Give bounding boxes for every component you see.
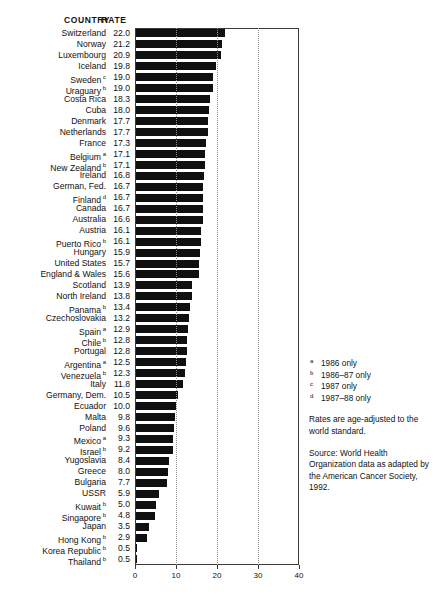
rate-value: 12.8 [108, 346, 130, 356]
rate-value: 19.8 [108, 61, 130, 71]
country-label: Yugoslavia [0, 455, 106, 465]
bar [135, 457, 169, 465]
column-header-rate: RATE [97, 15, 131, 25]
rate-value: 16.7 [108, 203, 130, 213]
bar [135, 128, 208, 136]
x-axis-tick [176, 565, 177, 569]
footnote-marker: c [310, 379, 313, 391]
country-label: Australia [0, 214, 106, 224]
rate-value: 12.3 [108, 368, 130, 378]
rate-value: 16.6 [108, 214, 130, 224]
rate-value: 18.3 [108, 94, 130, 104]
rate-value: 8.4 [108, 455, 130, 465]
footnote-marker: b [101, 556, 106, 562]
rate-value: 7.7 [108, 477, 130, 487]
bar [135, 468, 168, 476]
x-axis-tick [299, 565, 300, 569]
footnote-marker: a [101, 435, 106, 441]
rate-value: 2.9 [108, 532, 130, 542]
rate-value: 12.9 [108, 324, 130, 334]
bar [135, 347, 187, 355]
country-label: Malta [0, 412, 106, 422]
bar [135, 391, 178, 399]
footnote-marker: b [101, 501, 106, 507]
country-label: Scotland [0, 280, 106, 290]
footnote-item: c1987 only [309, 381, 429, 393]
rate-value: 17.7 [108, 116, 130, 126]
rate-value: 13.4 [108, 302, 130, 312]
footnote-marker: b [101, 512, 106, 518]
gridline [258, 28, 259, 565]
country-label: Cuba [0, 105, 106, 115]
x-axis-tick [135, 565, 136, 569]
bar [135, 544, 137, 552]
note-rates-text: Rates are age-adjusted to the world stan… [309, 414, 429, 437]
rate-value: 17.3 [108, 138, 130, 148]
footnote-item: a1986 only [309, 358, 429, 370]
rate-value: 13.9 [108, 280, 130, 290]
country-label: Switzerland [0, 28, 106, 38]
country-label: Ireland [0, 170, 106, 180]
rate-value: 15.9 [108, 247, 130, 257]
rate-value: 3.5 [108, 521, 130, 531]
country-label: Hungary [0, 247, 106, 257]
bar [135, 512, 155, 520]
bar [135, 325, 188, 333]
x-axis-tick-label: 10 [161, 571, 191, 580]
rate-value: 16.7 [108, 181, 130, 191]
country-label: France [0, 138, 106, 148]
rate-value: 20.9 [108, 50, 130, 60]
footnote-marker: b [101, 446, 106, 452]
country-label: Costa Rica [0, 94, 106, 104]
footnote-marker: b [101, 162, 106, 168]
rate-value: 18.0 [108, 105, 130, 115]
bar [135, 501, 156, 509]
bar [135, 358, 186, 366]
rate-value: 9.6 [108, 423, 130, 433]
x-axis-tick-label: 0 [120, 571, 150, 580]
country-label: Poland [0, 423, 106, 433]
rate-value: 9.2 [108, 444, 130, 454]
footnote-marker: b [101, 370, 106, 376]
rate-value: 5.0 [108, 499, 130, 509]
rate-value: 16.7 [108, 192, 130, 202]
country-label: Luxembourg [0, 50, 106, 60]
rate-value: 17.7 [108, 127, 130, 137]
footnote-marker: c [101, 74, 106, 80]
bar [135, 183, 203, 191]
footnote-block: a1986 onlyb1986–87 onlyc1987 onlyd1987–8… [309, 358, 429, 494]
x-axis-tick-label: 30 [243, 571, 273, 580]
rate-value: 10.0 [108, 401, 130, 411]
country-label: United States [0, 258, 106, 268]
x-axis-tick [217, 565, 218, 569]
rate-value: 13.2 [108, 313, 130, 323]
rate-value: 0.5 [108, 554, 130, 564]
footnote-marker: d [101, 194, 106, 200]
rate-value: 13.8 [108, 291, 130, 301]
bar [135, 117, 208, 125]
gridline [176, 28, 177, 565]
bar [135, 29, 225, 37]
bar [135, 303, 190, 311]
country-label: Norway [0, 39, 106, 49]
rate-value: 17.1 [108, 149, 130, 159]
bar [135, 216, 203, 224]
country-label: Iceland [0, 61, 106, 71]
bar [135, 281, 192, 289]
rate-value: 15.6 [108, 269, 130, 279]
footnote-list: a1986 onlyb1986–87 onlyc1987 onlyd1987–8… [309, 358, 429, 404]
rate-value: 4.8 [108, 510, 130, 520]
rate-value: 22.0 [108, 28, 130, 38]
bar [135, 270, 199, 278]
footnote-text: 1986 only [321, 358, 357, 368]
footnote-marker: a [101, 151, 106, 157]
rate-value: 16.1 [108, 225, 130, 235]
bar [135, 260, 199, 268]
bar [135, 205, 203, 213]
bar [135, 95, 210, 103]
country-label: Japan [0, 521, 106, 531]
rate-value: 11.8 [108, 379, 130, 389]
country-label: England & Wales [0, 269, 106, 279]
bar [135, 227, 201, 235]
country-label: Bulgaria [0, 477, 106, 487]
